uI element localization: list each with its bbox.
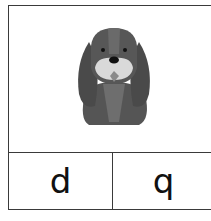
picture-area <box>9 6 211 152</box>
option-d[interactable]: d <box>9 153 113 209</box>
option-q[interactable]: q <box>112 153 211 209</box>
letter-card: d q <box>8 5 211 210</box>
answer-row: d q <box>9 152 211 209</box>
dog-icon <box>75 24 153 127</box>
